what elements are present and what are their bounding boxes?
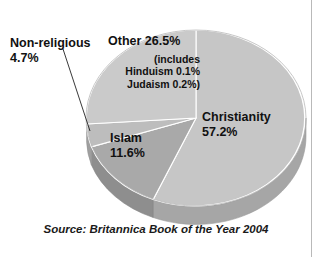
slice-label-other: Other 26.5% (108, 34, 180, 49)
slice-label-nonreligious: Non-religious 4.7% (10, 36, 91, 66)
source-caption: Source: Britannica Book of the Year 2004 (0, 223, 312, 235)
slice-label-islam: Islam 11.6% (110, 131, 145, 161)
slice-label-nonreligious-name: Non-religious (10, 36, 91, 51)
slice-label-nonreligious-percent: 4.7% (10, 51, 91, 66)
slice-label-other-note-line-2: Hinduism 0.1% (104, 65, 200, 77)
slice-label-christianity-percent: 57.2% (202, 125, 271, 140)
slice-label-christianity-name: Christianity (202, 110, 271, 125)
slice-label-islam-name: Islam (110, 131, 145, 146)
pie-chart-figure: Non-religious 4.7% Other 26.5% (includes… (0, 0, 326, 257)
slice-label-christianity: Christianity 57.2% (202, 110, 271, 140)
slice-label-other-note-line-1: (includes (104, 53, 200, 65)
slice-label-other-note: (includes Hinduism 0.1% Judaism 0.2%) (104, 53, 200, 90)
slice-label-islam-percent: 11.6% (110, 146, 145, 161)
slice-label-other-note-line-3: Judaism 0.2%) (104, 78, 200, 90)
